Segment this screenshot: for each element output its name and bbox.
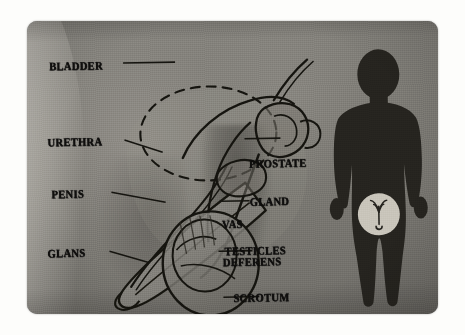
photo-plate: BLADDER URETHRA PENIS GLANS PROSTATE GLA…: [27, 21, 438, 314]
film-grain: [27, 21, 438, 314]
page-canvas: BLADDER URETHRA PENIS GLANS PROSTATE GLA…: [0, 0, 465, 335]
photo-print: BLADDER URETHRA PENIS GLANS PROSTATE GLA…: [27, 21, 438, 314]
